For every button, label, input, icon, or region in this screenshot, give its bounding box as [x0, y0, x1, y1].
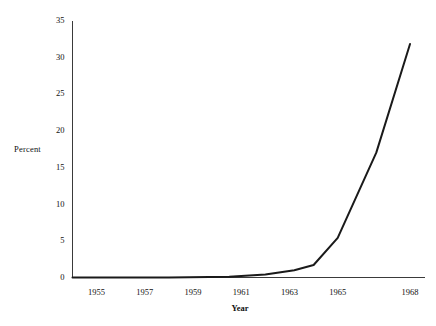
data-series-line	[73, 44, 411, 278]
chart-container: Percent 05101520253035 19551957195919611…	[0, 0, 436, 326]
plot-svg	[0, 0, 436, 326]
